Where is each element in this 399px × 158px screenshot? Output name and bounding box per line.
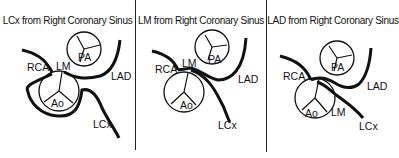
label-lcx: LCx (359, 120, 378, 132)
label-lad: LAD (238, 73, 259, 85)
label-lm: LM (56, 60, 71, 72)
label-rca: RCA (27, 61, 49, 73)
label-pa: PA (78, 51, 91, 63)
label-lcx: LCx (218, 119, 237, 131)
label-pa: PA (208, 53, 221, 65)
label-rca: RCA (283, 70, 305, 82)
label-lad: LAD (367, 80, 388, 92)
label-ao: Ao (180, 99, 193, 111)
label-lm: LM (182, 57, 197, 69)
label-lm: LM (331, 106, 346, 118)
label-rca: RCA (155, 63, 177, 75)
panel-lm-from-right-sinus: LM from Right Coronary Sinus RCA LM PA A… (136, 0, 266, 158)
label-ao: Ao (51, 97, 64, 109)
label-ao: Ao (305, 107, 318, 119)
coronary-diagram-3: RCA LM PA Ao LAD LCx (267, 0, 399, 158)
label-pa: PA (331, 61, 344, 73)
panel-lad-from-right-sinus: LAD from Right Coronary Sinus RCA LM PA … (267, 0, 399, 158)
label-lcx: LCx (93, 118, 112, 130)
panel-lcx-from-right-sinus: LCx from Right Coronary Sinus RCA LM PA … (0, 0, 135, 158)
coronary-diagram-2: RCA LM PA Ao LAD LCx (136, 0, 266, 158)
label-lad: LAD (111, 70, 132, 82)
coronary-diagram-1: RCA LM PA Ao LAD LCx (0, 0, 135, 158)
